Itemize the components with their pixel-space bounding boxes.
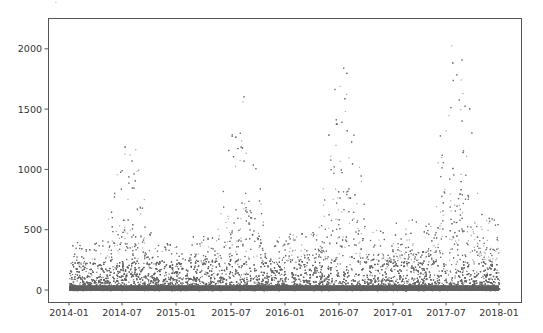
y-tick-label: 2000 xyxy=(18,43,42,54)
x-axis: 2014-012014-072015-012015-072016-012016-… xyxy=(49,302,519,318)
y-tick-label: 500 xyxy=(24,224,42,235)
scatter-points xyxy=(69,45,500,291)
y-axis: 0500100015002000 xyxy=(18,43,48,295)
x-tick-label: 2014-07 xyxy=(102,307,142,318)
x-tick-label: 2017-07 xyxy=(426,307,466,318)
scatter-chart: 2014-012014-072015-012015-072016-012016-… xyxy=(0,0,543,333)
x-tick-label: 2014-01 xyxy=(49,307,89,318)
x-tick-label: 2015-01 xyxy=(156,307,196,318)
x-tick-label: 2018-01 xyxy=(479,307,519,318)
x-tick-label: 2017-01 xyxy=(373,307,413,318)
x-tick-label: 2016-01 xyxy=(265,307,305,318)
y-tick-label: 1500 xyxy=(18,104,42,115)
plot-frame xyxy=(49,19,522,303)
y-tick-label: 1000 xyxy=(18,164,42,175)
x-tick-label: 2016-07 xyxy=(319,307,359,318)
x-tick-label: 2015-07 xyxy=(211,307,251,318)
y-tick-label: 0 xyxy=(36,285,42,296)
